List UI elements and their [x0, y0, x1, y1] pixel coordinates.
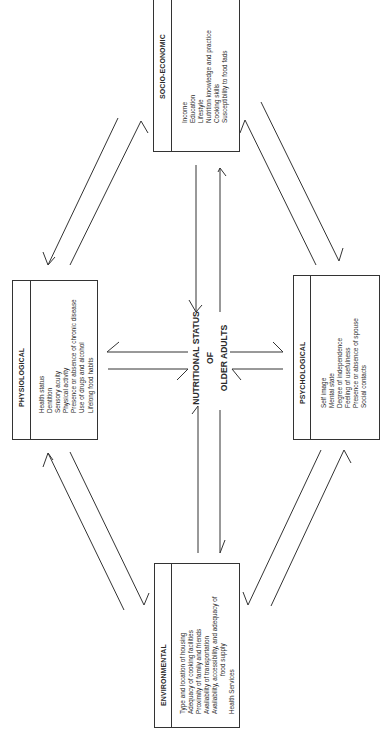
arrow-env-to-psych — [271, 450, 351, 606]
list-item: Use of drugs and alcohol — [78, 299, 86, 413]
center-label-line1: NUTRITIONAL STATUS — [189, 310, 203, 406]
socio-economic-heading: SOCIO-ECONOMIC — [159, 34, 166, 99]
arrow-center-to-psych — [230, 342, 283, 352]
list-item: Self image — [320, 318, 328, 408]
list-item: Presence or absence of spouse — [352, 318, 360, 408]
arrow-socio-to-center — [189, 165, 202, 312]
arrow-env-to-physio — [43, 453, 124, 610]
list-item: Physical activity — [62, 299, 70, 413]
physiological-box: PHYSIOLOGICAL Health status Dentition Se… — [12, 280, 98, 440]
environmental-box: ENVIRONMENTAL Type and location of housi… — [154, 563, 240, 728]
arrow-psych-to-socio — [240, 120, 316, 265]
list-item: Income — [181, 30, 189, 123]
physiological-header: PHYSIOLOGICAL — [13, 281, 31, 439]
list-item: Availability of transportation — [203, 596, 211, 714]
arrow-center-to-physio — [107, 342, 188, 352]
list-item: Availability, accessibility, and adequac… — [211, 596, 219, 714]
psychological-box: PSYCHOLOGICAL Self image Mental state De… — [293, 275, 380, 440]
list-item: Cooking skills — [213, 30, 221, 123]
list-item: Social contacts — [360, 318, 368, 408]
socio-economic-header: SOCIO-ECONOMIC — [154, 0, 172, 151]
list-item: Nutrition knowledge and practice — [205, 30, 213, 123]
list-item: Susceptibility to food fads — [221, 30, 229, 123]
environmental-header: ENVIRONMENTAL — [155, 564, 172, 727]
psychological-header: PSYCHOLOGICAL — [294, 276, 311, 439]
arrow-center-to-socio — [218, 168, 226, 312]
arrow-center-to-env — [220, 410, 225, 553]
list-item: Education — [189, 30, 197, 123]
environmental-list: Type and location of housing Adequacy of… — [179, 596, 236, 714]
list-item: Health Services — [228, 596, 236, 714]
list-item: food supply — [219, 596, 227, 714]
list-item: Dentition — [46, 299, 54, 413]
physiological-heading: PHYSIOLOGICAL — [18, 348, 25, 407]
center-label: NUTRITIONAL STATUS OF OLDER ADULTS — [189, 310, 231, 406]
list-item: Lifestyle — [197, 30, 205, 123]
arrow-physio-to-center — [108, 369, 188, 380]
physiological-list: Health status Dentition Sensory acuity P… — [38, 299, 95, 413]
list-item: Type and location of housing — [179, 596, 187, 714]
arrow-physio-to-env — [70, 452, 149, 605]
arrow-env-to-center — [192, 406, 198, 553]
list-item: Proximity of family and friends — [195, 596, 203, 714]
psychological-heading: PSYCHOLOGICAL — [299, 342, 306, 404]
list-item: Presence or absence of chronic disease — [70, 299, 78, 413]
arrow-physio-to-socio — [70, 121, 148, 265]
list-item: Mental state — [328, 318, 336, 408]
socio-economic-box: SOCIO-ECONOMIC Income Education Lifestyl… — [153, 0, 240, 152]
list-item: Health status — [38, 299, 46, 413]
environmental-heading: ENVIRONMENTAL — [160, 644, 167, 706]
list-item: Adequacy of cooking facilities — [187, 596, 195, 714]
arrow-psych-to-center — [232, 369, 283, 380]
list-item: Feeling of usefulness — [344, 318, 352, 408]
center-label-line2: OF — [203, 310, 217, 406]
list-item: Lifelong food habits — [87, 299, 95, 413]
socio-economic-list: Income Education Lifestyle Nutrition kno… — [181, 30, 230, 123]
center-label-line3: OLDER ADULTS — [217, 310, 231, 406]
list-item: Sensory acuity — [54, 299, 62, 413]
list-item: Degree of independence — [336, 318, 344, 408]
psychological-list: Self image Mental state Degree of indepe… — [320, 318, 369, 408]
